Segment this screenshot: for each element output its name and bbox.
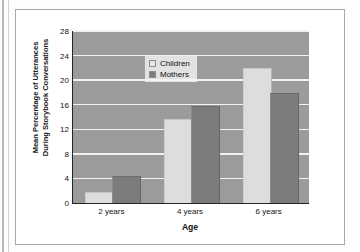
y-axis-tick-label: 24 (60, 51, 69, 60)
gridline (73, 55, 309, 56)
gridline (73, 79, 309, 80)
y-axis-title-line-1: Mean Percentage of Utterances (31, 18, 41, 178)
plot-area: ChildrenMothers 0481216202428 (72, 31, 309, 204)
y-axis-title: Mean Percentage of Utterances During Sto… (31, 18, 50, 178)
bar-children-6-years (243, 68, 272, 203)
page-left-rule (2, 0, 4, 252)
y-axis-tick-label: 28 (60, 27, 69, 36)
bar-mothers-4-years (191, 106, 220, 203)
x-axis-tick-label: 6 years (256, 207, 282, 216)
y-axis-tick-label: 20 (60, 76, 69, 85)
x-axis-tick-label: 2 years (98, 207, 124, 216)
y-axis-tick-label: 4 (65, 174, 69, 183)
page-background: Mean Percentage of Utterances During Sto… (0, 0, 360, 252)
legend-item-children: Children (149, 59, 190, 68)
legend-label: Mothers (160, 70, 189, 79)
y-axis-tick-label: 8 (65, 149, 69, 158)
legend-swatch-mothers-icon (149, 71, 156, 78)
x-axis-tick-label: 4 years (177, 207, 203, 216)
legend-label: Children (160, 59, 190, 68)
legend-swatch-children-icon (149, 60, 156, 67)
x-axis-title: Age (72, 222, 308, 232)
y-axis-tick-label: 0 (65, 199, 69, 208)
bar-mothers-2-years (112, 176, 141, 203)
y-axis-tick-label: 16 (60, 100, 69, 109)
bar-children-2-years (85, 192, 114, 203)
y-axis-title-line-2: During Storybook Conversations (40, 18, 50, 178)
y-axis-tick-label: 12 (60, 125, 69, 134)
page-left-rule-secondary (8, 0, 9, 252)
bar-children-4-years (164, 119, 193, 203)
figure-frame: Mean Percentage of Utterances During Sto… (15, 9, 345, 245)
bar-mothers-6-years (270, 93, 299, 203)
gridline (73, 30, 309, 31)
bar-chart: Mean Percentage of Utterances During Sto… (16, 10, 346, 246)
legend-item-mothers: Mothers (149, 70, 190, 79)
